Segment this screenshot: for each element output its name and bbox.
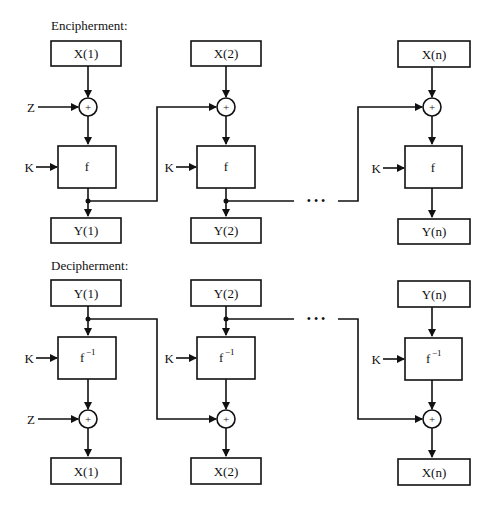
dec-func-label-1: f [80,350,85,365]
xor-plus-icon: + [85,101,91,113]
enc-ellipsis: • • • [307,194,326,208]
enc-input-label-2: X(2) [214,46,239,61]
dec-z-label: Z [27,412,35,427]
xor-plus-icon: + [429,413,435,425]
dec-input-label-n: Y(n) [422,287,447,302]
enc-output-label-n: Y(n) [422,224,447,239]
junction-dot [86,199,91,204]
dec-func-box-n [405,338,462,380]
enc-key-label-n: K [372,161,382,176]
dec-key-label-2: K [165,351,175,366]
dec-func-label-2: f [219,350,224,365]
cbc-mode-diagram: Encipherment: Decipherment: X(1) X(2) X(… [0,0,497,505]
enc-key-label-1: K [25,160,35,175]
dec-input-label-1: Y(1) [74,286,99,301]
dec-output-label-1: X(1) [74,464,99,479]
dec-func-box-2 [197,337,255,379]
enc-input-label-1: X(1) [74,46,99,61]
dec-output-label-n: X(n) [422,465,447,480]
junction-dot [86,317,91,322]
enc-input-label-n: X(n) [422,47,447,62]
dec-ellipsis: • • • [307,312,326,326]
enc-key-label-2: K [165,160,175,175]
dec-func-sup-n: −1 [432,348,442,358]
enc-func-label-n: f [431,160,436,175]
junction-dot [224,317,229,322]
dec-func-label-n: f [426,351,431,366]
junction-dot [224,199,229,204]
dec-func-box-1 [58,337,116,379]
dec-key-label-n: K [372,352,382,367]
dec-func-sup-2: −1 [225,347,235,357]
xor-plus-icon: + [429,101,435,113]
dec-func-sup-1: −1 [86,347,96,357]
enc-z-label: Z [27,100,35,115]
dec-key-label-1: K [25,351,35,366]
dec-input-label-2: Y(2) [214,286,239,301]
enc-output-label-1: Y(1) [74,223,99,238]
enc-func-label-2: f [224,159,229,174]
dec-output-label-2: X(2) [214,464,239,479]
xor-plus-icon: + [223,413,229,425]
decipherment-title: Decipherment: [51,258,128,273]
encipherment-title: Encipherment: [51,18,128,33]
xor-plus-icon: + [85,413,91,425]
xor-plus-icon: + [223,101,229,113]
enc-output-label-2: Y(2) [214,223,239,238]
enc-func-label-1: f [85,159,90,174]
